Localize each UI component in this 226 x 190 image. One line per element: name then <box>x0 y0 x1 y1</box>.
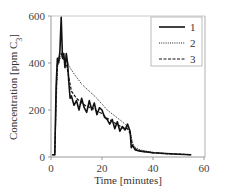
x-tick-label: 0 <box>48 162 54 174</box>
y-tick-label: 600 <box>29 10 46 22</box>
concentration-chart: 0200400600 0204060 1 2 3 Time [minutes] … <box>0 0 226 190</box>
y-tick-label: 400 <box>29 57 46 69</box>
legend-label-1: 1 <box>190 21 196 33</box>
y-axis: 0200400600 <box>29 10 52 163</box>
x-tick-label: 20 <box>97 162 109 174</box>
y-tick-label: 200 <box>29 104 46 116</box>
y-tick-label: 0 <box>40 151 46 163</box>
legend-label-3: 3 <box>190 53 196 65</box>
x-tick-label: 40 <box>148 162 160 174</box>
x-axis: 0204060 <box>48 157 210 174</box>
y-axis-label: Concentration [ppm C3] <box>7 34 24 140</box>
series-2-line <box>52 56 191 155</box>
x-tick-label: 60 <box>199 162 211 174</box>
legend: 1 2 3 <box>151 17 202 66</box>
legend-label-2: 2 <box>190 37 196 49</box>
x-axis-label: Time [minutes] <box>94 174 162 186</box>
